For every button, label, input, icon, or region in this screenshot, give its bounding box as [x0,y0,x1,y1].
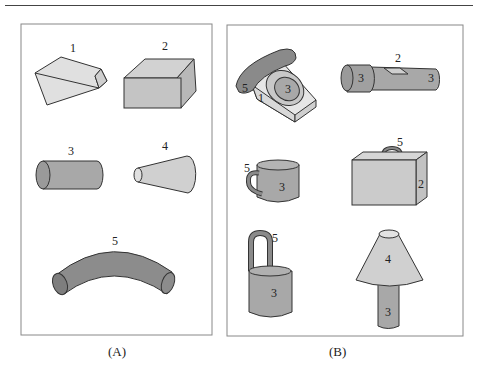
label-flash-switch: 2 [395,51,401,65]
label-phone-dial: 3 [285,82,291,96]
caption-panel-a: (A) [108,344,126,360]
label-a2: 2 [162,39,168,53]
object-mug [248,160,299,202]
label-phone-base: 1 [258,91,264,105]
label-mug-handle: 5 [244,161,250,175]
shape-4-cone [134,156,196,193]
label-mug-body: 3 [279,180,285,194]
label-lamp-shade: 4 [385,252,391,266]
object-telephone [236,49,316,122]
label-bucket-body: 3 [271,286,277,300]
object-flashlight [341,65,440,92]
shape-2-box [124,59,196,108]
figure-canvas: 1 2 3 4 5 5 3 1 2 3 [0,0,478,379]
label-a1: 1 [70,41,76,55]
label-phone-handset: 5 [242,81,248,95]
label-a4: 4 [162,139,168,153]
label-case-handle: 5 [397,135,403,149]
label-bucket-handle: 5 [272,231,278,245]
shape-3-cylinder [36,161,103,189]
label-flash-body: 3 [428,71,434,85]
object-bucket [249,233,292,317]
label-a3: 3 [68,144,74,158]
label-a5: 5 [112,234,118,248]
label-case-body: 2 [418,177,424,191]
shape-5-curved-tube [50,252,178,297]
object-briefcase [352,148,427,205]
label-flash-head: 3 [358,71,364,85]
caption-panel-b: (B) [329,344,346,360]
label-lamp-base: 3 [385,305,391,319]
shape-1-wedge [35,57,107,105]
